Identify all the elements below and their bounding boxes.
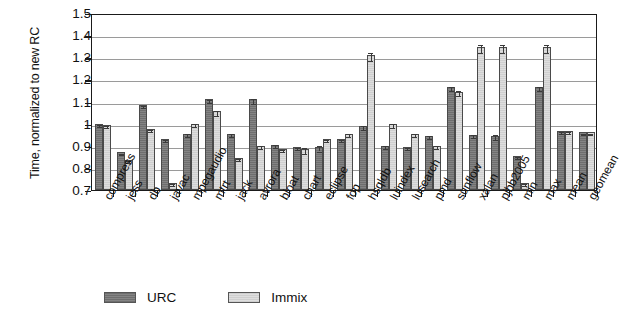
error-bar-cap bbox=[500, 45, 505, 46]
error-bar-cap bbox=[317, 146, 322, 147]
bar-urc-hsqldb bbox=[359, 126, 367, 190]
error-bar-cap bbox=[185, 134, 190, 135]
error-bar-cap bbox=[588, 135, 593, 136]
error-bar-cap bbox=[163, 142, 168, 143]
error-bar-cap bbox=[434, 149, 439, 150]
error-bar-cap bbox=[427, 136, 432, 137]
error-bar-cap bbox=[251, 104, 256, 105]
error-bar-cap bbox=[207, 103, 212, 104]
error-bar-cap bbox=[456, 91, 461, 92]
error-bar-cap bbox=[449, 91, 454, 92]
error-bar-cap bbox=[185, 137, 190, 138]
error-bar-cap bbox=[324, 142, 329, 143]
error-bar-cap bbox=[273, 148, 278, 149]
error-bar-cap bbox=[412, 134, 417, 135]
legend-label-immix: Immix bbox=[271, 290, 307, 305]
error-bar-cap bbox=[148, 132, 153, 133]
error-bar-cap bbox=[236, 161, 241, 162]
error-bar bbox=[503, 45, 504, 53]
error-bar-cap bbox=[258, 149, 263, 150]
error-bar-cap bbox=[192, 124, 197, 125]
error-bar-cap bbox=[478, 53, 483, 54]
error-bar-cap bbox=[104, 128, 109, 129]
error-bar-cap bbox=[302, 148, 307, 149]
legend-label-urc: URC bbox=[147, 290, 176, 305]
error-bar-cap bbox=[295, 150, 300, 151]
bar-immix-db bbox=[147, 129, 155, 190]
y-axis-title: Time, normalized to new RC bbox=[28, 0, 42, 208]
error-bar-cap bbox=[405, 150, 410, 151]
y-axis-ticks: 0.70.80.911.11.21.31.41.5 bbox=[43, 14, 91, 191]
legend-swatch-urc bbox=[104, 292, 136, 303]
error-bar bbox=[481, 45, 482, 53]
bar-urc-javac bbox=[161, 139, 169, 190]
error-bar-cap bbox=[258, 146, 263, 147]
error-bar-cap bbox=[456, 96, 461, 97]
error-bar-cap bbox=[97, 127, 102, 128]
error-bar-cap bbox=[214, 111, 219, 112]
error-bar-cap bbox=[390, 128, 395, 129]
error-bar-cap bbox=[566, 134, 571, 135]
legend-swatch-immix bbox=[228, 292, 260, 303]
bar-urc-avrora bbox=[249, 99, 257, 190]
error-bar-cap bbox=[280, 150, 285, 151]
error-bar-cap bbox=[229, 137, 234, 138]
bar-urc-max bbox=[535, 87, 543, 190]
error-bar-cap bbox=[280, 152, 285, 153]
bar-urc-db bbox=[139, 105, 147, 190]
error-bar-cap bbox=[339, 142, 344, 143]
x-axis-tick-labels: compressjessdbjavacmpegaudiomtrtjackavro… bbox=[91, 196, 597, 296]
error-bar-cap bbox=[478, 45, 483, 46]
error-bar-cap bbox=[192, 127, 197, 128]
error-bar-cap bbox=[544, 53, 549, 54]
error-bar-cap bbox=[361, 130, 366, 131]
error-bar-cap bbox=[383, 146, 388, 147]
legend-entry-urc: URC bbox=[104, 290, 176, 305]
bar-urc-sunflow bbox=[447, 87, 455, 190]
error-bar-cap bbox=[500, 53, 505, 54]
error-bar-cap bbox=[427, 139, 432, 140]
error-bar-cap bbox=[368, 61, 373, 62]
chart-legend: URC Immix bbox=[104, 289, 307, 305]
error-bar-cap bbox=[324, 140, 329, 141]
error-bar-cap bbox=[229, 134, 234, 135]
error-bar-cap bbox=[390, 124, 395, 125]
error-bar-cap bbox=[493, 135, 498, 136]
error-bar-cap bbox=[317, 152, 322, 153]
bar-urc-compress bbox=[95, 124, 103, 190]
error-bar-cap bbox=[251, 99, 256, 100]
error-bar-cap bbox=[273, 145, 278, 146]
error-bar-cap bbox=[214, 116, 219, 117]
error-bar-cap bbox=[339, 140, 344, 141]
legend-entry-immix: Immix bbox=[228, 290, 307, 305]
error-bar-cap bbox=[361, 126, 366, 127]
error-bar-cap bbox=[581, 135, 586, 136]
error-bar-cap bbox=[412, 137, 417, 138]
error-bar-cap bbox=[207, 100, 212, 101]
bar-immix-pjbb2005 bbox=[499, 47, 507, 190]
error-bar-cap bbox=[302, 154, 307, 155]
error-bar-cap bbox=[295, 148, 300, 149]
error-bar bbox=[371, 53, 372, 61]
error-bar-cap bbox=[346, 134, 351, 135]
error-bar-cap bbox=[537, 91, 542, 92]
error-bar bbox=[547, 45, 548, 53]
error-bar-cap bbox=[471, 135, 476, 136]
error-bar-cap bbox=[537, 87, 542, 88]
bar-immix-sunflow bbox=[455, 92, 463, 190]
error-bar-cap bbox=[368, 53, 373, 54]
error-bar-cap bbox=[493, 140, 498, 141]
error-bar-cap bbox=[405, 148, 410, 149]
error-bar-cap bbox=[559, 134, 564, 135]
error-bar-cap bbox=[236, 159, 241, 160]
bar-immix-max bbox=[543, 47, 551, 190]
error-bar-cap bbox=[544, 45, 549, 46]
error-bar-cap bbox=[434, 146, 439, 147]
error-bar-cap bbox=[346, 137, 351, 138]
error-bar-cap bbox=[471, 138, 476, 139]
error-bar-cap bbox=[141, 108, 146, 109]
error-bar-cap bbox=[449, 87, 454, 88]
error-bar-cap bbox=[383, 149, 388, 150]
bar-immix-hsqldb bbox=[367, 55, 375, 190]
